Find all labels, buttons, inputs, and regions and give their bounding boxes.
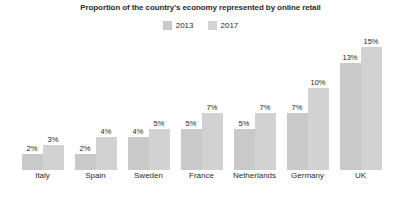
bar-value-label: 5%: [154, 119, 165, 128]
bar-group: 2%4%: [75, 36, 117, 170]
bar-rect: [287, 113, 308, 170]
bar-value-label: 7%: [292, 103, 303, 112]
bar-rect: [75, 154, 96, 170]
bar-rect: [43, 145, 64, 170]
bar-sweden-2013[interactable]: 4%: [128, 36, 149, 170]
category-label-france: France: [175, 171, 228, 180]
bar-france-2013[interactable]: 5%: [181, 36, 202, 170]
bar-rect: [255, 113, 276, 170]
bar-rect: [181, 129, 202, 170]
plot-area: 2%3%2%4%4%5%5%7%5%7%7%10%13%15%: [0, 36, 401, 170]
bar-rect: [340, 63, 361, 170]
bar-group: 7%10%: [287, 36, 329, 170]
bar-germany-2017[interactable]: 10%: [308, 36, 329, 170]
bar-chart: Proportion of the country's economy repr…: [0, 0, 401, 197]
bar-value-label: 4%: [101, 127, 112, 136]
category-label-sweden: Sweden: [122, 171, 175, 180]
bar-value-label: 5%: [239, 119, 250, 128]
bar-uk-2013[interactable]: 13%: [340, 36, 361, 170]
bar-italy-2013[interactable]: 2%: [22, 36, 43, 170]
bar-value-label: 4%: [133, 127, 144, 136]
legend-label: 2017: [221, 21, 239, 30]
bar-value-label: 2%: [80, 144, 91, 153]
bar-rect: [149, 129, 170, 170]
bar-group: 5%7%: [234, 36, 276, 170]
bar-sweden-2017[interactable]: 5%: [149, 36, 170, 170]
bar-value-label: 15%: [363, 37, 378, 46]
bar-italy-2017[interactable]: 3%: [43, 36, 64, 170]
bar-value-label: 3%: [48, 135, 59, 144]
bar-value-label: 7%: [207, 103, 218, 112]
bar-rect: [202, 113, 223, 170]
category-label-germany: Germany: [281, 171, 334, 180]
bar-value-label: 13%: [342, 53, 357, 62]
bar-rect: [96, 137, 117, 170]
bar-group: 2%3%: [22, 36, 64, 170]
bar-germany-2013[interactable]: 7%: [287, 36, 308, 170]
bar-value-label: 5%: [186, 119, 197, 128]
category-label-netherlands: Netherlands: [228, 171, 281, 180]
bar-uk-2017[interactable]: 15%: [361, 36, 382, 170]
bar-netherlands-2017[interactable]: 7%: [255, 36, 276, 170]
bar-spain-2013[interactable]: 2%: [75, 36, 96, 170]
bar-france-2017[interactable]: 7%: [202, 36, 223, 170]
bar-group: 4%5%: [128, 36, 170, 170]
bar-netherlands-2013[interactable]: 5%: [234, 36, 255, 170]
bar-rect: [308, 88, 329, 170]
bar-group: 5%7%: [181, 36, 223, 170]
bar-rect: [22, 154, 43, 170]
bar-spain-2017[interactable]: 4%: [96, 36, 117, 170]
legend-item-2013: 2013: [163, 21, 194, 30]
legend-swatch-icon: [208, 21, 217, 30]
bar-value-label: 10%: [310, 78, 325, 87]
chart-legend: 2013 2017: [0, 21, 401, 30]
legend-swatch-icon: [163, 21, 172, 30]
category-label-uk: UK: [334, 171, 387, 180]
bar-rect: [128, 137, 149, 170]
legend-item-2017: 2017: [208, 21, 239, 30]
category-label-spain: Spain: [69, 171, 122, 180]
bar-group: 13%15%: [340, 36, 382, 170]
chart-title: Proportion of the country's economy repr…: [0, 3, 401, 12]
bar-value-label: 2%: [27, 144, 38, 153]
bar-value-label: 7%: [260, 103, 271, 112]
category-label-italy: Italy: [16, 171, 69, 180]
bar-rect: [234, 129, 255, 170]
bar-rect: [361, 47, 382, 170]
category-axis: ItalySpainSwedenFranceNetherlandsGermany…: [0, 171, 401, 191]
legend-label: 2013: [176, 21, 194, 30]
